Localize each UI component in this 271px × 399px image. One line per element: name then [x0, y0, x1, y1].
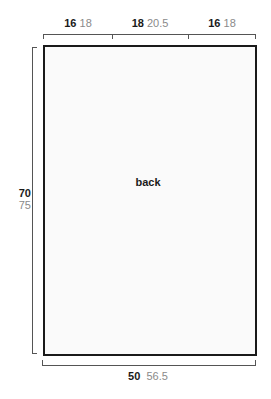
back-panel [43, 45, 257, 356]
top-right-shoulder-label: 16 18 [208, 17, 236, 29]
width-label: 50 56.5 [128, 370, 168, 382]
left-tick [32, 47, 37, 48]
top-tick [112, 34, 113, 39]
top-neck-width-label: 18 20.5 [132, 17, 169, 29]
left-dimension-line [32, 47, 33, 354]
top-tick [255, 34, 256, 39]
bottom-tick [42, 360, 43, 365]
bottom-dimension-line [42, 365, 256, 366]
top-tick [188, 34, 189, 39]
bottom-tick [255, 360, 256, 365]
top-dimension-line [43, 34, 256, 35]
panel-label: back [135, 176, 160, 188]
top-left-shoulder-label: 16 18 [64, 17, 92, 29]
height-label: 70 75 [18, 187, 31, 211]
left-tick [32, 353, 37, 354]
top-tick [43, 34, 44, 39]
